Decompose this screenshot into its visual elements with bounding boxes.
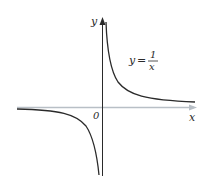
- origin-label: 0: [93, 110, 100, 121]
- function-label-denominator: x: [149, 61, 155, 72]
- function-label-numerator: 1: [150, 49, 156, 60]
- y-axis-arrow-icon: [100, 17, 106, 25]
- y-axis-label: y: [90, 15, 98, 28]
- function-label-eq: =: [137, 54, 146, 67]
- x-axis-arrow-icon: [189, 105, 197, 111]
- hyperbola-plot: y x 0 y = 1 x: [0, 0, 203, 186]
- curve-left-branch: [17, 109, 99, 175]
- function-label-lhs: y: [128, 54, 136, 67]
- x-axis-label: x: [189, 111, 196, 124]
